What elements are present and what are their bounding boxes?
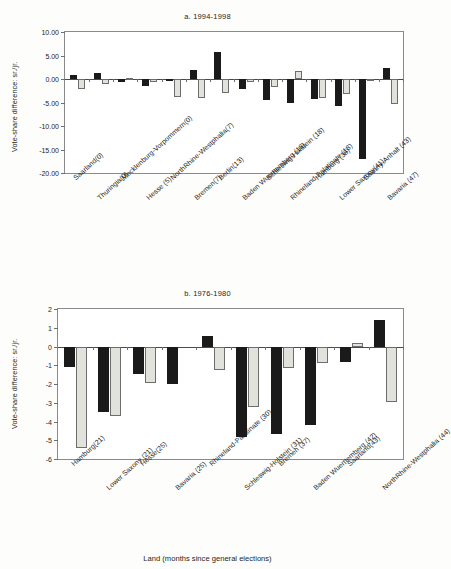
x-axis-tick bbox=[306, 79, 307, 82]
x-axis-tick bbox=[210, 79, 211, 82]
category-label: Bavaria (47) bbox=[386, 170, 420, 202]
bar-sr-8 bbox=[340, 347, 351, 362]
y-axis-tick bbox=[54, 365, 58, 366]
bar-jr-7 bbox=[317, 347, 328, 364]
y-axis-tick-label: 10.00 bbox=[41, 29, 59, 36]
bar-jr-2 bbox=[126, 78, 133, 80]
x-axis-tick bbox=[379, 79, 380, 82]
x-axis-tick bbox=[234, 79, 235, 82]
chart-a-ylabel: Vote-share difference: sr./jr. bbox=[10, 62, 19, 152]
chart-panel-b: b. 1976-1980 Vote-share difference: sr./… bbox=[0, 284, 415, 544]
bar-jr-10 bbox=[319, 79, 326, 98]
bar-sr-9 bbox=[374, 320, 385, 346]
bar-jr-2 bbox=[145, 347, 156, 384]
y-axis-tick-label: 1 bbox=[48, 324, 52, 331]
x-axis-tick bbox=[162, 79, 163, 82]
y-axis-tick-label: -1 bbox=[46, 362, 52, 369]
x-axis-tick bbox=[403, 347, 404, 350]
y-axis-tick-label: -10.00 bbox=[39, 123, 59, 130]
y-axis-tick-label: -5 bbox=[46, 437, 52, 444]
y-axis-tick bbox=[61, 150, 65, 151]
y-axis-tick-label: 2 bbox=[48, 306, 52, 313]
x-axis-tick bbox=[334, 347, 335, 350]
bar-sr-9 bbox=[287, 79, 294, 103]
bar-jr-1 bbox=[102, 79, 109, 84]
x-axis-tick bbox=[231, 347, 232, 350]
bar-jr-3 bbox=[150, 79, 157, 82]
bar-jr-5 bbox=[248, 347, 259, 407]
bar-jr-13 bbox=[391, 79, 398, 104]
bar-jr-6 bbox=[222, 79, 229, 93]
bar-sr-5 bbox=[190, 70, 197, 79]
bar-jr-8 bbox=[271, 79, 278, 87]
y-axis-tick bbox=[54, 309, 58, 310]
y-axis-tick bbox=[61, 79, 65, 80]
chart-b-plot-area: 210-1-2-3-4-5-6 bbox=[57, 308, 404, 460]
bar-sr-6 bbox=[271, 347, 282, 434]
bar-jr-4 bbox=[174, 79, 181, 97]
x-axis-tick bbox=[403, 79, 404, 82]
bar-sr-2 bbox=[118, 79, 125, 82]
bar-sr-1 bbox=[94, 73, 101, 79]
y-axis-tick-label: 0 bbox=[48, 343, 52, 350]
chart-a-category-labels: Saarland(0)Thuringia(0)Mecklenburg-Vorpo… bbox=[0, 176, 415, 296]
chart-b-ylabel: Vote-share difference: sr./jr. bbox=[10, 339, 19, 429]
bar-jr-9 bbox=[295, 71, 302, 79]
bar-sr-6 bbox=[214, 52, 221, 79]
y-axis-tick bbox=[61, 126, 65, 127]
y-axis-tick bbox=[54, 384, 58, 385]
x-axis-tick bbox=[265, 347, 266, 350]
bar-jr-7 bbox=[247, 79, 254, 82]
bar-sr-4 bbox=[166, 79, 173, 81]
figure-xlabel: Land (months since general elections) bbox=[0, 554, 415, 563]
bar-jr-6 bbox=[283, 347, 294, 369]
category-label: Hesse (5) bbox=[145, 175, 173, 202]
x-axis-tick bbox=[300, 347, 301, 350]
chart-b-category-labels: Hamburg(21)Lower Saxony (21)Hesse(25)Bav… bbox=[0, 462, 415, 569]
x-axis-tick bbox=[186, 79, 187, 82]
y-axis-tick bbox=[54, 347, 58, 348]
chart-a-plot-area: 10.005.000.00-5.00-10.00-15.00-20.00 bbox=[64, 31, 404, 174]
x-axis-tick bbox=[137, 79, 138, 82]
x-axis-tick bbox=[258, 79, 259, 82]
x-axis-tick bbox=[162, 347, 163, 350]
y-axis-tick-label: -15.00 bbox=[39, 146, 59, 153]
bar-jr-1 bbox=[110, 347, 121, 416]
x-axis-tick bbox=[113, 79, 114, 82]
bar-jr-0 bbox=[76, 347, 87, 448]
x-axis-tick bbox=[196, 347, 197, 350]
bar-jr-8 bbox=[352, 343, 363, 347]
y-axis-tick bbox=[61, 32, 65, 33]
bar-sr-0 bbox=[64, 347, 75, 368]
bar-sr-7 bbox=[239, 79, 246, 89]
bar-sr-7 bbox=[305, 347, 316, 426]
x-axis-tick bbox=[369, 347, 370, 350]
bar-sr-2 bbox=[133, 347, 144, 374]
y-axis-tick-label: 5.00 bbox=[45, 52, 59, 59]
bar-sr-5 bbox=[236, 347, 247, 437]
chart-b-title: b. 1976-1980 bbox=[0, 289, 415, 298]
bar-sr-0 bbox=[70, 75, 77, 79]
y-axis-tick bbox=[61, 103, 65, 104]
chart-panel-a: a. 1994-1998 Vote-share difference: sr./… bbox=[0, 0, 415, 284]
y-axis-tick bbox=[54, 328, 58, 329]
x-axis-tick bbox=[355, 79, 356, 82]
bar-sr-3 bbox=[142, 79, 149, 86]
bar-jr-12 bbox=[367, 79, 374, 81]
x-axis-tick bbox=[282, 79, 283, 82]
x-axis-tick bbox=[93, 347, 94, 350]
y-axis-tick-label: -3 bbox=[46, 399, 52, 406]
y-axis-tick bbox=[61, 173, 65, 174]
y-axis-tick bbox=[61, 56, 65, 57]
y-axis-tick bbox=[54, 403, 58, 404]
bar-sr-8 bbox=[263, 79, 270, 100]
bar-jr-0 bbox=[78, 79, 85, 89]
chart-a-title: a. 1994-1998 bbox=[0, 12, 415, 21]
category-label: Bavaria (25) bbox=[174, 460, 208, 492]
y-axis-tick-label: -2 bbox=[46, 381, 52, 388]
bar-jr-9 bbox=[386, 347, 397, 402]
y-axis-tick bbox=[54, 422, 58, 423]
bar-jr-4 bbox=[214, 347, 225, 370]
bar-sr-11 bbox=[335, 79, 342, 106]
bar-sr-3 bbox=[167, 347, 178, 385]
